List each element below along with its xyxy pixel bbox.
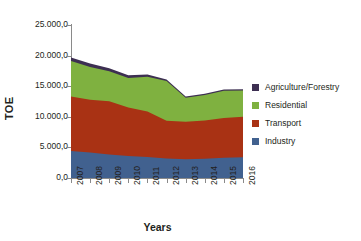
y-axis-tick-labels: 25.000,0 20.000,0 15.000,0 10.000,0 5.00…	[10, 0, 68, 241]
legend-label: Residential	[265, 100, 307, 110]
y-tick-label: 20.000,0	[10, 51, 68, 60]
x-tick-label-2008: 2008	[94, 166, 104, 185]
x-axis-tick	[90, 179, 91, 183]
x-tick-label-2014: 2014	[209, 166, 219, 185]
legend-swatch-icon	[252, 102, 259, 109]
x-tick-label-2007: 2007	[75, 166, 85, 185]
x-axis-tick	[243, 179, 244, 183]
x-axis-tick	[186, 179, 187, 183]
x-tick-label-2013: 2013	[190, 166, 200, 185]
x-axis-tick	[224, 179, 225, 183]
legend-swatch-icon	[252, 84, 259, 91]
legend-item-transport: Transport	[252, 114, 360, 132]
y-tick-label: 15.000,0	[10, 81, 68, 90]
legend-label: Industry	[265, 136, 295, 146]
legend-item-industry: Industry	[252, 132, 360, 150]
y-tick-label: 0,0	[10, 173, 68, 182]
legend-label: Agriculture/Forestry	[265, 82, 339, 92]
x-axis-tick	[109, 179, 110, 183]
legend-item-agriculture-forestry: Agriculture/Forestry	[252, 78, 360, 96]
x-tick-label-2010: 2010	[132, 166, 142, 185]
x-tick-label-2009: 2009	[113, 166, 123, 185]
x-axis-tick	[128, 179, 129, 183]
x-axis-tick	[205, 179, 206, 183]
y-tick-label: 5.000,0	[10, 142, 68, 151]
chart-legend: Agriculture/Forestry Residential Transpo…	[252, 78, 360, 150]
x-tick-label-2015: 2015	[228, 166, 238, 185]
legend-label: Transport	[265, 118, 301, 128]
x-tick-label-2016: 2016	[247, 166, 257, 185]
x-axis-tick	[71, 179, 72, 183]
x-tick-label-2012: 2012	[171, 166, 181, 185]
x-axis-title: Years	[71, 221, 244, 233]
stacked-area-series	[71, 25, 243, 178]
x-axis-tick	[167, 179, 168, 183]
plot-area	[71, 25, 243, 178]
y-tick-label: 10.000,0	[10, 112, 68, 121]
x-tick-label-2011: 2011	[151, 167, 161, 185]
y-tick-label: 25.000,0	[10, 20, 68, 29]
legend-item-residential: Residential	[252, 96, 360, 114]
legend-swatch-icon	[252, 138, 259, 145]
legend-swatch-icon	[252, 120, 259, 127]
x-axis-tick	[147, 179, 148, 183]
area-chart: TOE 25.000,0 20.000,0 15.000,0 10.000,0 …	[0, 0, 361, 241]
